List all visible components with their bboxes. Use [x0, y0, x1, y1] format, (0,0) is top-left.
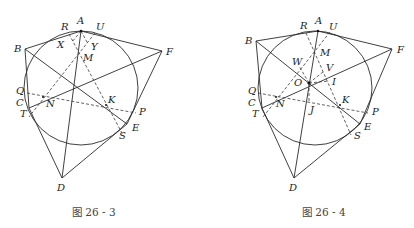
label-M: M: [82, 52, 94, 63]
label-C: C: [248, 97, 256, 108]
label-D: D: [288, 182, 297, 193]
label-O: O: [294, 77, 302, 88]
label-K: K: [107, 94, 116, 105]
point-K: [105, 104, 107, 106]
label-C: C: [16, 97, 24, 108]
figure-26-3: A R U B F X Y M Q C T N K P E S D 图 26 -…: [13, 15, 174, 218]
label-Q: Q: [248, 85, 256, 96]
point-A: [80, 30, 82, 32]
dashed-AY: [81, 31, 88, 44]
label-I: I: [331, 76, 337, 87]
incircle: [24, 31, 138, 145]
label-A: A: [314, 15, 322, 26]
figure-26-4: A R U B F W M V O I Q C T N J K P E S D …: [244, 15, 405, 218]
label-R: R: [60, 21, 69, 32]
caption-26-4: 图 26 - 4: [302, 206, 346, 218]
line-AD: [294, 31, 318, 178]
label-E: E: [363, 121, 372, 132]
point-K: [339, 104, 341, 106]
line-AD: [62, 31, 81, 178]
caption-26-3: 图 26 - 3: [72, 206, 116, 218]
label-D: D: [56, 182, 65, 193]
geometry-figures: A R U B F X Y M Q C T N K P E S D 图 26 -…: [0, 0, 414, 228]
label-S: S: [119, 130, 126, 141]
label-N: N: [45, 98, 56, 109]
label-A: A: [76, 15, 84, 26]
label-V: V: [326, 62, 335, 73]
label-K: K: [341, 94, 350, 105]
point-O: [307, 81, 310, 84]
label-U: U: [329, 21, 338, 32]
dashed-QP: [27, 93, 136, 113]
label-W: W: [292, 56, 303, 67]
label-T: T: [20, 108, 28, 119]
label-F: F: [396, 44, 405, 55]
label-B: B: [13, 43, 21, 54]
label-Y: Y: [91, 41, 99, 52]
label-N: N: [275, 98, 286, 109]
label-R: R: [299, 20, 308, 31]
point-A: [317, 30, 319, 32]
label-F: F: [165, 46, 174, 57]
label-U: U: [96, 21, 105, 32]
label-X: X: [56, 39, 65, 50]
label-S: S: [354, 130, 361, 141]
label-P: P: [371, 106, 379, 117]
line-BE: [25, 49, 127, 124]
label-Q: Q: [16, 85, 24, 96]
label-P: P: [138, 106, 146, 117]
label-M: M: [319, 47, 331, 58]
label-E: E: [131, 122, 140, 133]
label-B: B: [244, 35, 252, 46]
point-N: [42, 96, 44, 98]
dashed-OI: [309, 81, 329, 83]
label-T: T: [252, 108, 260, 119]
label-J: J: [308, 104, 315, 115]
